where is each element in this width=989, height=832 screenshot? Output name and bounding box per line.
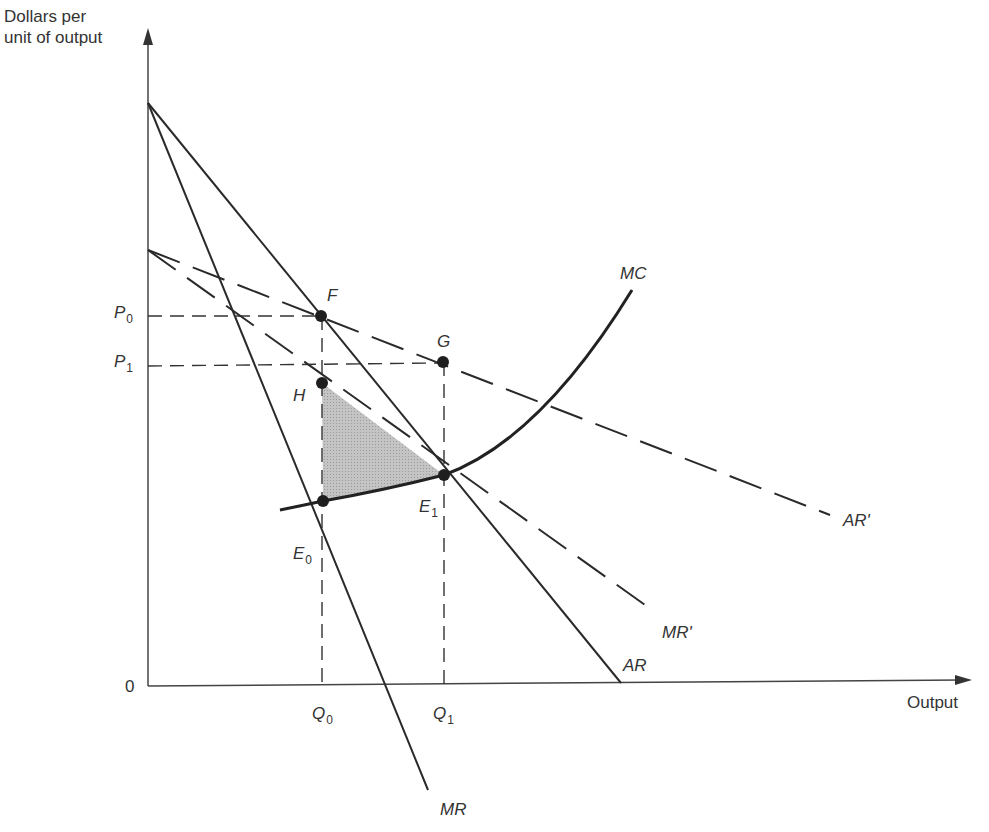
mr-prime-label: MR': [662, 624, 692, 641]
y-axis-title: Dollars per unit of output: [4, 6, 102, 48]
ar-label: AR: [623, 657, 647, 674]
mr-label: MR: [440, 801, 466, 818]
ar-curve: [148, 103, 621, 683]
point-f-label: F: [327, 287, 337, 304]
point-g: [437, 356, 449, 368]
point-e1: [438, 469, 450, 481]
guide-lines: [148, 316, 444, 686]
x-axis-arrow-icon: [955, 675, 972, 685]
point-h: [316, 377, 328, 389]
economics-diagram: [0, 0, 989, 832]
mr-prime-curve: [148, 250, 652, 610]
p1-guide: [148, 363, 443, 366]
point-e1-label: E1: [419, 498, 438, 515]
point-f: [315, 310, 327, 322]
x-axis: [148, 680, 962, 686]
q1-label: Q1: [433, 705, 454, 722]
q0-label: Q0: [312, 705, 333, 722]
ar-prime-label: AR': [843, 512, 870, 529]
point-h-label: H: [293, 387, 305, 404]
y-axis-arrow-icon: [143, 28, 153, 45]
ar-prime-curve: [148, 250, 830, 515]
axes: [148, 40, 962, 686]
point-g-label: G: [437, 333, 450, 350]
point-e0: [317, 495, 329, 507]
origin-label: 0: [125, 678, 134, 695]
mc-label: MC: [620, 265, 646, 282]
point-e0-label: E0: [293, 545, 312, 562]
x-axis-title: Output: [907, 694, 958, 711]
p1-label: P1: [114, 353, 133, 370]
p0-label: P0: [114, 304, 133, 321]
